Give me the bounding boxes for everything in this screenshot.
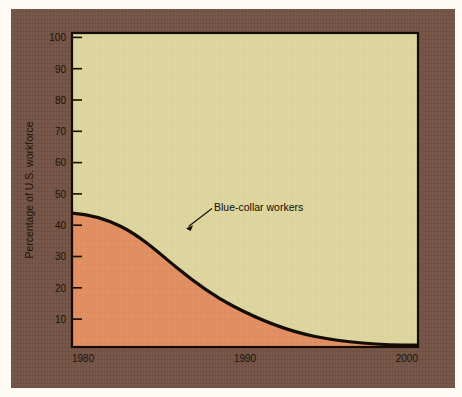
area-chart: 100 90 80 70 60 50 40 30 20 10 Percentag… xyxy=(0,0,462,397)
annotation-blue-collar-workers: Blue-collar workers xyxy=(214,201,303,213)
x-tick-label: 1990 xyxy=(234,353,257,364)
chart-figure: 100 90 80 70 60 50 40 30 20 10 Percentag… xyxy=(0,0,462,397)
y-tick-label: 10 xyxy=(55,314,67,325)
x-axis-tick-labels: 1980 1990 2000 xyxy=(72,353,418,364)
y-tick-label: 40 xyxy=(55,220,67,231)
y-tick-label: 50 xyxy=(55,189,67,200)
y-tick-label: 100 xyxy=(49,32,66,43)
y-axis-title: Percentage of U.S. workforce xyxy=(23,121,35,258)
y-tick-label: 60 xyxy=(55,157,67,168)
y-tick-label: 90 xyxy=(55,64,67,75)
y-tick-label: 80 xyxy=(55,95,67,106)
y-tick-label: 30 xyxy=(55,251,67,262)
x-tick-label: 2000 xyxy=(396,353,419,364)
y-tick-label: 70 xyxy=(55,126,67,137)
y-tick-label: 20 xyxy=(55,283,67,294)
y-axis-tick-labels: 100 90 80 70 60 50 40 30 20 10 xyxy=(49,32,66,325)
x-tick-label: 1980 xyxy=(72,353,95,364)
